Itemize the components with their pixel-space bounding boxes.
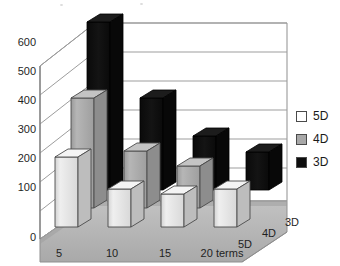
legend-swatch-3D	[296, 157, 307, 168]
plot-area: 600 500 400 300 200 100 0 5 10 15 20 ter…	[0, 0, 340, 266]
bar-3D-group20	[246, 144, 282, 190]
y-tick-400: 400	[2, 94, 36, 106]
y-tick-200: 200	[2, 152, 36, 164]
x-tick-5: 5	[44, 247, 74, 259]
y-tick-300: 300	[2, 123, 36, 135]
x-tick-10: 10	[97, 247, 127, 259]
legend: 5D 4D 3D	[296, 110, 328, 179]
legend-label-3D: 3D	[313, 156, 328, 168]
x-tick-15: 15	[150, 247, 180, 259]
y-tick-500: 500	[2, 65, 36, 77]
y-tick-0: 0	[2, 231, 36, 243]
legend-item-5D[interactable]: 5D	[296, 110, 328, 122]
legend-label-4D: 4D	[313, 133, 328, 145]
bar-5D-group15	[161, 186, 197, 227]
scan-speckle	[140, 3, 143, 5]
legend-item-3D[interactable]: 3D	[296, 156, 328, 168]
depth-tick-5D: 5D	[238, 238, 252, 250]
legend-label-5D: 5D	[313, 110, 328, 122]
depth-tick-4D: 4D	[262, 227, 276, 239]
bar-5D-group10	[108, 181, 144, 227]
legend-item-4D[interactable]: 4D	[296, 133, 328, 145]
bar-5D-group5	[55, 149, 91, 227]
depth-tick-3D: 3D	[285, 216, 299, 228]
chart-figure: 600 500 400 300 200 100 0 5 10 15 20 ter…	[0, 0, 340, 266]
legend-swatch-5D	[296, 111, 307, 122]
scan-speckle	[60, 4, 63, 6]
y-tick-100: 100	[2, 181, 36, 193]
bar-5D-group20	[214, 181, 250, 227]
legend-swatch-4D	[296, 134, 307, 145]
y-tick-600: 600	[2, 36, 36, 48]
